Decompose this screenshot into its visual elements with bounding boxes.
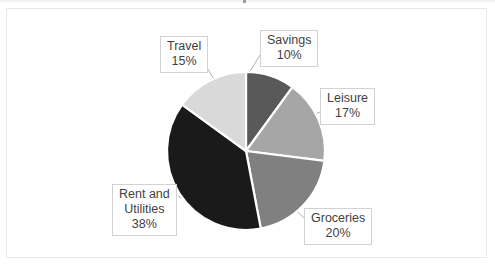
pie-label-groceries[interactable]: Groceries 20% (304, 208, 372, 245)
leader-line-savings (249, 55, 260, 73)
pie-label-savings-percent: 10% (267, 48, 311, 63)
pie-label-leisure-name: Leisure (327, 91, 368, 106)
pie-label-savings[interactable]: Savings 10% (260, 30, 318, 67)
pie-label-travel-name: Travel (167, 39, 201, 54)
pie-label-leisure-percent: 17% (327, 106, 368, 121)
pie-label-travel[interactable]: Travel 15% (160, 36, 208, 73)
pie-label-travel-percent: 15% (167, 54, 201, 69)
pie-chart-graphic (0, 0, 495, 268)
pie-label-rent-and-utilities[interactable]: Rent and Utilities 38% (112, 184, 177, 236)
pie-label-groceries-name: Groceries (311, 211, 365, 226)
pie-label-savings-name: Savings (267, 33, 311, 48)
pie-slices (167, 72, 325, 230)
pie-label-rent-name-line2: Utilities (119, 202, 170, 217)
pie-chart-screenshot: Savings 10% Leisure 17% Groceries 20% Re… (0, 0, 495, 268)
pie-label-groceries-percent: 20% (311, 226, 365, 241)
pie-label-rent-name-line1: Rent and (119, 187, 170, 202)
chart-plot-area: Savings 10% Leisure 17% Groceries 20% Re… (0, 0, 495, 268)
pie-label-leisure[interactable]: Leisure 17% (320, 88, 375, 125)
pie-label-rent-percent: 38% (119, 217, 170, 232)
